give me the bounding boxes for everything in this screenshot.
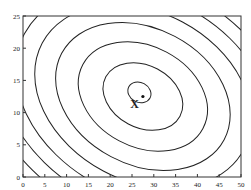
y-tick-label: 5 (17, 141, 21, 149)
x-tick-label: 25 (129, 181, 137, 189)
contour-line (124, 78, 154, 107)
x-tick-label: 0 (21, 181, 25, 189)
x-tick-label: 15 (85, 181, 93, 189)
y-tick-label: 15 (13, 77, 21, 85)
y-tick-label: 10 (13, 109, 21, 117)
minimum-point-marker (141, 95, 144, 98)
x-tick-label: 50 (238, 181, 246, 189)
x-tick-label: 5 (43, 181, 47, 189)
minimum-point-label: X (130, 97, 139, 111)
x-tick-label: 35 (172, 181, 180, 189)
x-tick-label: 40 (194, 181, 202, 189)
x-tick-label: 30 (150, 181, 158, 189)
x-tick-label: 45 (216, 181, 224, 189)
x-tick-label: 20 (107, 181, 115, 189)
y-tick-label: 0 (17, 174, 21, 182)
x-tick-label: 10 (63, 181, 71, 189)
contour-lines (0, 0, 251, 190)
y-tick-label: 20 (13, 45, 21, 53)
y-axis: 0510152025 (13, 13, 26, 182)
contour-line (3, 0, 251, 190)
x-axis: 05101520253035404550 (21, 174, 245, 189)
contour-plot: 05101520253035404550 0510152025 X (0, 0, 251, 190)
y-tick-label: 25 (13, 13, 21, 21)
